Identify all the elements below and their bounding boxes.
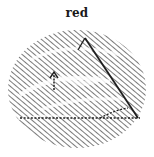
hatched-oval-sketch [0,0,154,157]
